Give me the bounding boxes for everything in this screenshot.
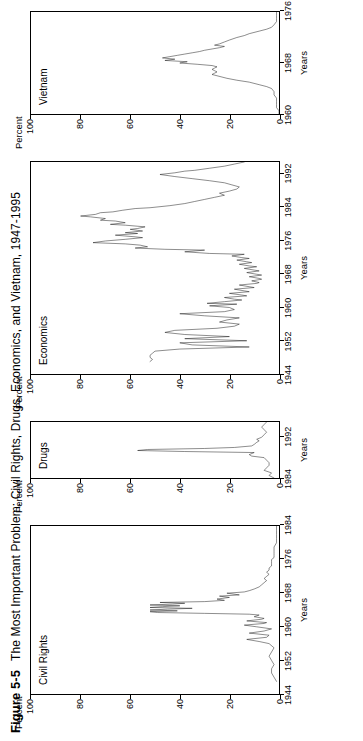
- panel-civil-rights: Civil RightsPercent100806040200194419521…: [30, 525, 330, 695]
- x-axis-tick-mark: [280, 592, 284, 593]
- x-axis-tick-mark: [280, 374, 284, 375]
- x-axis-label: Years: [298, 598, 309, 622]
- x-axis-tick-label: 1984: [283, 197, 293, 217]
- y-axis-tick-mark: [180, 375, 181, 379]
- plot-area: [30, 11, 280, 115]
- y-axis-tick-label: 60: [125, 699, 135, 717]
- y-axis-label: Percent: [13, 696, 24, 729]
- y-axis-tick-label: 20: [225, 483, 235, 501]
- y-axis-label: Percent: [13, 116, 24, 149]
- x-axis-tick-label: 1960: [283, 298, 293, 318]
- y-axis-tick-mark: [80, 695, 81, 699]
- y-axis-tick-label: 80: [75, 119, 85, 137]
- y-axis-tick-label: 80: [75, 379, 85, 397]
- y-axis-tick-mark: [130, 375, 131, 379]
- y-axis-tick-mark: [80, 375, 81, 379]
- y-axis-tick-label: 60: [125, 483, 135, 501]
- plot-area: [30, 421, 280, 479]
- y-axis-tick-label: 20: [225, 699, 235, 717]
- panel-vietnam: VietnamPercent100806040200196019681976Ye…: [30, 11, 330, 115]
- x-axis-tick-mark: [280, 114, 284, 115]
- y-axis-tick-label: 20: [225, 119, 235, 137]
- x-axis-tick-mark: [280, 206, 284, 207]
- x-axis-tick-label: 1984: [283, 469, 293, 489]
- figure-title: The Most Important Problem: Civil Rights…: [9, 192, 23, 661]
- y-axis-tick-mark: [280, 695, 281, 699]
- figure-stage: Figure 5-5The Most Important Problem: Ci…: [0, 0, 363, 741]
- y-axis-tick-mark: [30, 375, 31, 379]
- series-line-svg: [31, 12, 279, 114]
- x-axis-tick-mark: [280, 626, 284, 627]
- x-axis-tick-label: 1976: [283, 1, 293, 21]
- y-axis-tick-mark: [130, 115, 131, 119]
- y-axis-tick-label: 40: [175, 379, 185, 397]
- panel-economics: EconomicsPercent100806040200194419521960…: [30, 161, 330, 375]
- x-axis-tick-mark: [280, 660, 284, 661]
- x-axis-tick-mark: [280, 524, 284, 525]
- x-axis-tick-mark: [280, 694, 284, 695]
- y-axis-tick-mark: [130, 479, 131, 483]
- y-axis-tick-mark: [180, 695, 181, 699]
- x-axis-tick-label: 1976: [283, 231, 293, 251]
- figure-header: Figure 5-5The Most Important Problem: Ci…: [6, 192, 24, 733]
- x-axis-tick-label: 1960: [283, 617, 293, 637]
- y-axis-tick-mark: [80, 115, 81, 119]
- y-axis-tick-label: 100: [25, 699, 35, 717]
- y-axis-tick-label: 60: [125, 379, 135, 397]
- x-axis-label: Years: [298, 438, 309, 462]
- x-axis-tick-label: 1944: [283, 685, 293, 705]
- x-axis-tick-mark: [280, 558, 284, 559]
- x-axis-label: Years: [298, 51, 309, 75]
- x-axis-tick-label: 1992: [283, 427, 293, 447]
- plot-area: [30, 525, 280, 695]
- y-axis-label: Percent: [13, 480, 24, 513]
- x-axis-tick-mark: [280, 436, 284, 437]
- y-axis-tick-mark: [180, 115, 181, 119]
- series-line-svg: [31, 526, 279, 694]
- x-axis-tick-mark: [280, 240, 284, 241]
- y-axis-tick-mark: [30, 695, 31, 699]
- x-axis-label: Years: [298, 256, 309, 280]
- x-axis-tick-label: 1992: [283, 164, 293, 184]
- x-axis-tick-label: 1976: [283, 549, 293, 569]
- y-axis-tick-label: 40: [175, 483, 185, 501]
- y-axis-tick-label: 20: [225, 379, 235, 397]
- x-axis-tick-mark: [280, 273, 284, 274]
- y-axis-tick-mark: [80, 479, 81, 483]
- y-axis-tick-label: 40: [175, 699, 185, 717]
- y-axis-tick-mark: [230, 695, 231, 699]
- y-axis-tick-mark: [280, 115, 281, 119]
- panel-drugs: DrugsPercent10080604020019841992Years: [30, 421, 330, 479]
- y-axis-label: Percent: [13, 376, 24, 409]
- y-axis-tick-mark: [180, 479, 181, 483]
- x-axis-tick-mark: [280, 478, 284, 479]
- y-axis-tick-mark: [30, 479, 31, 483]
- y-axis-tick-label: 100: [25, 379, 35, 397]
- series-title: Vietnam: [38, 68, 49, 105]
- y-axis-tick-label: 100: [25, 483, 35, 501]
- x-axis-tick-mark: [280, 10, 284, 11]
- series-line-svg: [31, 422, 279, 478]
- x-axis-tick-label: 1968: [283, 264, 293, 284]
- x-axis-tick-label: 1952: [283, 651, 293, 671]
- y-axis-tick-mark: [130, 695, 131, 699]
- x-axis-tick-label: 1944: [283, 365, 293, 385]
- x-axis-tick-label: 1984: [283, 515, 293, 535]
- chart-panels: Civil RightsPercent100806040200194419521…: [30, 0, 360, 741]
- series-line-svg: [31, 162, 279, 374]
- y-axis-tick-label: 40: [175, 119, 185, 137]
- plot-area: [30, 161, 280, 375]
- x-axis-tick-label: 1968: [283, 583, 293, 603]
- y-axis-tick-mark: [280, 479, 281, 483]
- x-axis-tick-label: 1960: [283, 105, 293, 125]
- y-axis-tick-label: 80: [75, 483, 85, 501]
- y-axis-tick-label: 60: [125, 119, 135, 137]
- y-axis-tick-label: 100: [25, 119, 35, 137]
- x-axis-tick-label: 1968: [283, 53, 293, 73]
- y-axis-tick-mark: [230, 115, 231, 119]
- x-axis-tick-mark: [280, 173, 284, 174]
- y-axis-tick-mark: [230, 479, 231, 483]
- y-axis-tick-mark: [30, 115, 31, 119]
- x-axis-tick-label: 1952: [283, 331, 293, 351]
- y-axis-tick-mark: [230, 375, 231, 379]
